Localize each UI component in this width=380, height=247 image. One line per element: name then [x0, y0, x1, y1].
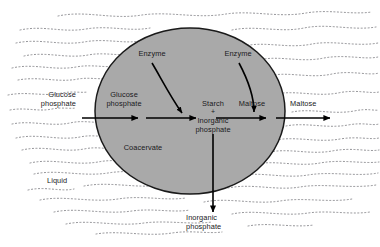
label-plus-sign: + [188, 108, 238, 115]
label-glucose-phosphate-inside: Glucose phosphate [96, 91, 152, 108]
label-maltose-inside: Maltose [230, 100, 274, 109]
label-coacervate: Coacervate [110, 144, 176, 153]
label-glucose-phosphate-outside: Glucose phosphate [6, 91, 76, 108]
label-inorganic-phosphate-inside: Inorganic phosphate [186, 117, 240, 134]
label-inorganic-phosphate-outside: Inorganic phosphate [186, 214, 250, 231]
coacervate-diagram: Glucose phosphate Glucose phosphate Enzy… [0, 0, 380, 247]
label-enzyme-right: Enzyme [212, 50, 264, 59]
label-maltose-outside: Maltose [290, 100, 346, 109]
label-enzyme-left: Enzyme [126, 50, 178, 59]
label-liquid: Liquid [47, 177, 95, 186]
